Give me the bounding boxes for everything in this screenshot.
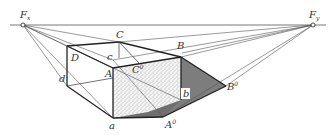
- label-A: A: [104, 68, 112, 79]
- label-d: d: [59, 73, 65, 84]
- vanishing-point-fx: [21, 23, 25, 27]
- label-fy: Fy: [308, 9, 320, 22]
- vanishing-point-fy: [311, 23, 315, 27]
- label-A0: A0: [164, 118, 176, 130]
- label-C: C: [116, 29, 124, 40]
- perspective-diagram: Fx Fy C B D c A C0 d b B0 a A0: [0, 0, 331, 135]
- label-b: b: [183, 88, 189, 99]
- label-D: D: [70, 52, 79, 63]
- label-B: B: [176, 40, 184, 51]
- label-B0: B0: [226, 80, 238, 92]
- label-fx: Fx: [19, 9, 31, 21]
- label-a: a: [109, 120, 115, 131]
- label-c: c: [107, 51, 113, 62]
